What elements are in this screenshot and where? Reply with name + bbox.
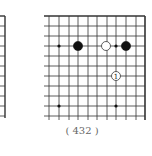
svg-text:1: 1 bbox=[114, 73, 118, 81]
stones: 1 bbox=[73, 41, 130, 80]
white-stone bbox=[102, 42, 111, 51]
black-stone bbox=[73, 41, 82, 50]
star-point bbox=[114, 44, 117, 47]
star-point bbox=[114, 104, 117, 107]
diagram-caption: ( 432 ) bbox=[65, 125, 98, 136]
white-stone-1: 1 bbox=[112, 72, 121, 81]
star-point bbox=[57, 104, 60, 107]
board-grid bbox=[44, 16, 145, 120]
left-board-fragment bbox=[0, 16, 5, 118]
star-point bbox=[57, 44, 60, 47]
black-stone bbox=[121, 41, 130, 50]
